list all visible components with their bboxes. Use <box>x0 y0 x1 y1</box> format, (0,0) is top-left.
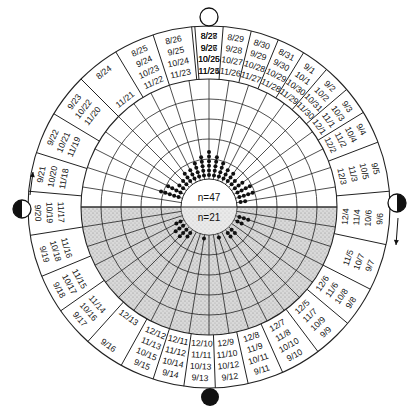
observation-dot <box>222 176 226 180</box>
sector-label: 9/1910/1811/16 <box>38 236 75 263</box>
sector-label: 9/1210/1211/1012/9 <box>216 336 240 382</box>
sector-label: 9/510/511/312/3 <box>335 162 382 186</box>
observation-dot <box>185 175 189 179</box>
date-label: 8/27 <box>201 31 218 41</box>
observation-dot <box>233 231 237 235</box>
sector-label: 9/1612/13 <box>99 307 141 354</box>
observation-dot <box>226 179 230 183</box>
observation-dot <box>207 164 211 168</box>
date-label: 11/10 <box>216 348 238 360</box>
observation-dot <box>181 231 185 235</box>
date-label: 11/4 <box>351 209 362 226</box>
center-circle: n=47n=21 <box>181 179 237 235</box>
observation-dot <box>226 168 230 172</box>
observation-dot <box>168 192 172 196</box>
observation-dot <box>184 228 188 232</box>
observation-dot <box>178 234 182 238</box>
date-label: 10/25 <box>198 54 220 64</box>
sector-label: 9/710/711/5 <box>341 248 377 273</box>
arrow-down-right-icon <box>394 218 399 245</box>
observation-dot <box>202 237 206 241</box>
observation-dot <box>229 175 233 179</box>
observation-dot <box>213 164 217 168</box>
observation-dot <box>174 188 178 192</box>
observation-dot <box>192 176 196 180</box>
observation-dot <box>166 184 170 188</box>
observation-dot <box>242 216 246 220</box>
date-label: 8/24 <box>94 63 114 81</box>
sector-divider <box>30 227 82 235</box>
last-quarter-moon-icon <box>13 200 31 218</box>
observation-dot <box>202 173 206 177</box>
observation-dot <box>230 182 234 186</box>
observation-dot <box>178 190 182 194</box>
date-label: 12/9 <box>217 336 235 348</box>
full-moon-icon <box>200 8 218 26</box>
observation-dot <box>190 172 194 176</box>
observation-dot <box>224 172 228 176</box>
observation-dot <box>181 186 185 190</box>
grid-spoke <box>118 116 189 187</box>
observation-dot <box>194 166 198 170</box>
observation-dot <box>240 181 244 185</box>
sector-divider <box>29 191 82 196</box>
observation-dot <box>200 160 204 164</box>
sector-label: 9/2110/2011/18 <box>35 165 71 190</box>
date-label: 10/13 <box>190 361 212 372</box>
diagram-canvas: 8/289/2710/2611/258/299/2810/2711/268/30… <box>0 0 419 414</box>
observation-dot <box>217 235 221 239</box>
observation-dot <box>188 179 192 183</box>
observation-dot <box>207 173 211 177</box>
date-label: 9/12 <box>221 371 239 383</box>
observation-dot <box>181 224 185 228</box>
observation-dot <box>207 168 211 172</box>
observation-dot <box>217 175 221 179</box>
observation-dot <box>184 182 188 186</box>
sector-label: 9/2010/1911/17 <box>33 202 67 224</box>
observation-dot <box>226 231 230 235</box>
date-label: 9/6 <box>374 212 385 225</box>
observation-dot <box>201 164 205 168</box>
observation-dot <box>236 190 240 194</box>
sector-label: 9/2210/2111/19 <box>45 128 83 159</box>
date-label: 11/24 <box>199 66 220 76</box>
sector-label: 9/610/611/412/4 <box>340 208 385 227</box>
observation-dot <box>199 155 203 159</box>
date-label: 9/13 <box>191 372 208 383</box>
observation-dot <box>177 227 181 231</box>
observation-dot <box>218 170 222 174</box>
sector-label: 9/1010/1011/812/7 <box>268 317 305 364</box>
observation-dot <box>240 222 244 226</box>
new-moon-icon <box>201 388 219 406</box>
observation-dot <box>242 194 246 198</box>
observation-dot <box>240 188 244 192</box>
observation-dot <box>246 218 250 222</box>
observation-dot <box>183 172 187 176</box>
observation-dot <box>233 179 237 183</box>
observation-dot <box>237 215 241 219</box>
observation-dot <box>251 191 255 195</box>
grid-spoke <box>237 187 336 203</box>
grid-spoke <box>229 116 300 187</box>
observation-dot <box>237 195 241 199</box>
observation-dot <box>229 235 233 239</box>
observation-dot <box>163 191 167 195</box>
observation-dot <box>244 186 248 190</box>
observation-dot <box>207 159 211 163</box>
sector-divider <box>36 153 87 169</box>
date-label: 9/26 <box>201 43 218 53</box>
observation-dot <box>197 175 201 179</box>
date-label: 9/14 <box>161 367 180 381</box>
count-lower-label: n=21 <box>198 212 221 223</box>
sector-label: 9/810/811/612/6 <box>313 273 358 310</box>
date-label: 11/18 <box>57 167 71 190</box>
sector-divider <box>337 191 390 196</box>
observation-dot <box>213 169 217 173</box>
observation-dot <box>233 186 237 190</box>
sector-divider <box>192 27 197 80</box>
date-label: 8/29 <box>227 32 245 45</box>
observation-dot <box>177 183 181 187</box>
date-label: 11/21 <box>114 89 137 110</box>
date-label: 12/3 <box>335 167 349 186</box>
first-quarter-moon-icon <box>388 194 406 212</box>
